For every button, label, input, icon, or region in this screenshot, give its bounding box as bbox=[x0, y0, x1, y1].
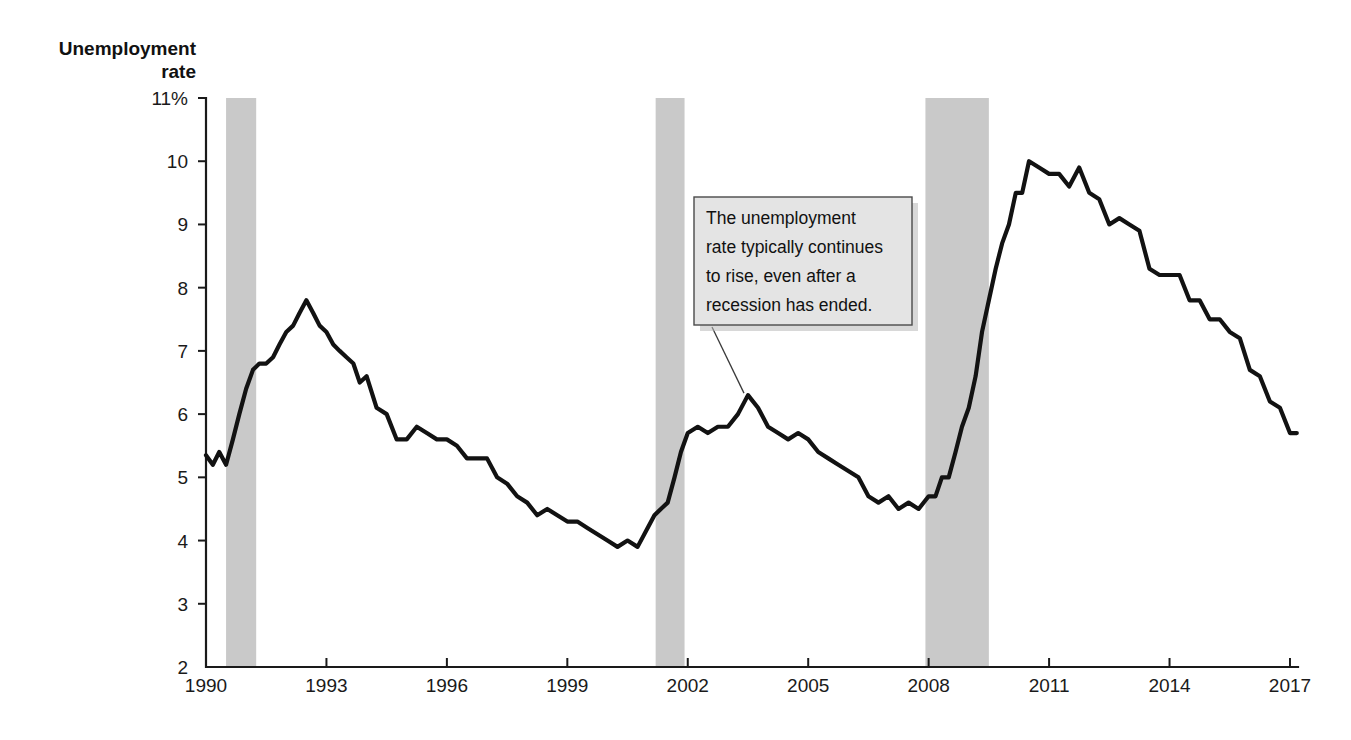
y-tick-label: 4 bbox=[177, 531, 188, 552]
y-tick-label: 5 bbox=[177, 467, 188, 488]
x-tick-label: 2008 bbox=[908, 675, 950, 696]
callout-line-2: rate typically continues bbox=[706, 237, 883, 257]
y-axis-title-line-1: Unemployment bbox=[59, 38, 197, 59]
y-tick-label: 7 bbox=[177, 341, 188, 362]
x-axis-ticks bbox=[326, 658, 1290, 667]
recession-band-group bbox=[226, 98, 989, 667]
recession-band bbox=[656, 98, 685, 667]
y-tick-label: 11% bbox=[151, 88, 188, 109]
x-tick-label: 1990 bbox=[185, 675, 227, 696]
y-tick-label: 10 bbox=[167, 151, 188, 172]
y-tick-label: 8 bbox=[177, 278, 188, 299]
callout-line-4: recession has ended. bbox=[706, 295, 872, 315]
axes-group bbox=[198, 98, 1298, 667]
x-axis-tick-labels: 1990199319961999200220052008201120142017 bbox=[185, 675, 1311, 696]
y-axis-tick-labels: 234567891011% bbox=[151, 88, 188, 678]
unemployment-rate-chart: 234567891011% 19901993199619992002200520… bbox=[0, 0, 1351, 740]
callout-leader-line bbox=[712, 327, 744, 393]
x-tick-label: 2002 bbox=[667, 675, 709, 696]
x-tick-label: 2005 bbox=[787, 675, 829, 696]
callout-line-1: The unemployment bbox=[706, 208, 856, 228]
y-axis-title: Unemployment rate bbox=[59, 38, 197, 82]
y-axis-ticks bbox=[198, 98, 206, 604]
x-tick-label: 1996 bbox=[426, 675, 468, 696]
x-tick-label: 2011 bbox=[1029, 675, 1070, 696]
y-tick-label: 6 bbox=[177, 404, 188, 425]
y-tick-label: 9 bbox=[177, 214, 188, 235]
y-axis-title-line-2: rate bbox=[161, 61, 196, 82]
recession-band bbox=[226, 98, 256, 667]
x-tick-label: 2017 bbox=[1269, 675, 1311, 696]
callout-line-3: to rise, even after a bbox=[706, 266, 856, 286]
x-tick-label: 2014 bbox=[1148, 675, 1191, 696]
recession-band bbox=[925, 98, 988, 667]
x-tick-label: 1999 bbox=[546, 675, 588, 696]
callout-annotation: The unemployment rate typically continue… bbox=[694, 197, 918, 393]
y-tick-label: 3 bbox=[177, 594, 188, 615]
x-tick-label: 1993 bbox=[305, 675, 347, 696]
